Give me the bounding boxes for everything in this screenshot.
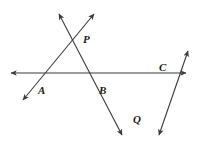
geometry-canvas [0, 0, 209, 142]
point-label-c: C [159, 62, 166, 73]
geometry-figure: A B C P Q [0, 0, 209, 142]
point-label-b: B [99, 85, 106, 96]
transversal-through-a-and-p [23, 14, 94, 100]
transversal-through-p-b-and-q [59, 14, 122, 135]
point-label-q: Q [133, 114, 141, 125]
point-label-p: P [83, 34, 90, 45]
point-label-a: A [38, 85, 45, 96]
